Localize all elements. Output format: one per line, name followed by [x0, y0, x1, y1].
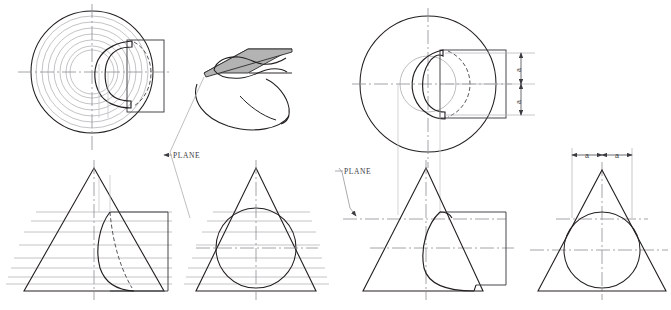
plane-label-front: PLANE — [344, 167, 371, 176]
cutting-plane-levels-front-right — [343, 219, 514, 248]
dimension-a-horizontal-group: a a — [572, 152, 632, 159]
side-view-right: a a — [530, 148, 668, 300]
plane-label-top: PLANE — [173, 151, 200, 160]
front-view-left — [6, 160, 172, 300]
intersection-curve-front-right — [423, 212, 474, 291]
cone-triangle-front-right — [363, 168, 483, 291]
top-view-right — [352, 8, 535, 215]
side-rect-front-right — [440, 212, 506, 285]
front-view-right — [343, 160, 514, 300]
intersection-curve-front-left — [98, 212, 134, 291]
projectors-top-right — [398, 84, 440, 215]
top-view-left — [18, 4, 172, 152]
dim-label-a4: a — [615, 152, 619, 159]
center-lines-top-right — [352, 8, 512, 168]
pictorial-view — [196, 49, 292, 130]
extension-lines-top-right — [445, 53, 535, 115]
dim-label-a2: a — [515, 100, 522, 104]
cutting-plane-lines-front-left — [6, 212, 172, 284]
side-view-left — [184, 160, 329, 300]
dim-label-a1: a — [515, 68, 522, 72]
pictorial-cone-body — [196, 74, 289, 130]
drawing-canvas: PLANE — [0, 0, 671, 310]
cut-outline-kidney — [95, 41, 132, 108]
cut-top-round-front-right — [440, 212, 452, 218]
side-rect-front-left — [110, 212, 168, 291]
engineering-drawing-svg: PLANE — [0, 0, 671, 310]
cut-bottom-edge-front-right — [474, 285, 476, 291]
dim-label-a3: a — [585, 152, 589, 159]
center-lines-side-right — [530, 162, 668, 300]
